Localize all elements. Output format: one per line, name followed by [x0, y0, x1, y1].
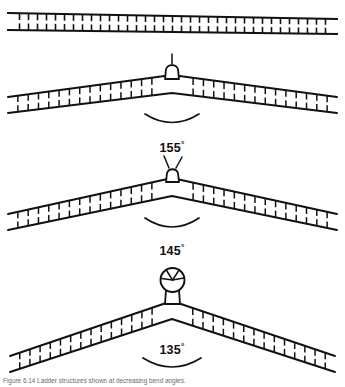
- figure-root: 155° 145°: [0, 0, 345, 387]
- degree-symbol: °: [181, 242, 185, 252]
- apex-dome-with-antennae-icon: [164, 156, 182, 182]
- degree-symbol: °: [181, 341, 185, 351]
- panel-straight-ladder: [0, 0, 345, 48]
- angle-arc: [145, 114, 199, 123]
- panel-bent-ladder-135: [0, 258, 345, 376]
- ladder-rungs: [18, 182, 327, 228]
- angle-arc: [145, 218, 199, 227]
- angle-label-145: 145°: [122, 242, 222, 258]
- apex-dome-with-stem-icon: [165, 54, 179, 79]
- degree-symbol: °: [181, 139, 185, 149]
- ladder-rungs: [20, 308, 326, 369]
- angle-label-135: 135°: [122, 341, 222, 357]
- angle-arc: [143, 358, 201, 367]
- figure-caption: Figure 6.14 Ladder structures shown at d…: [3, 377, 333, 386]
- ladder-rails: [8, 178, 337, 230]
- ladder-rails: [8, 75, 337, 113]
- apex-circular-head-icon: [161, 268, 185, 304]
- angle-value: 135: [159, 343, 180, 357]
- angle-value: 145: [159, 244, 180, 258]
- panel-bent-ladder-155: [0, 52, 345, 152]
- ladder-rails: [10, 301, 335, 372]
